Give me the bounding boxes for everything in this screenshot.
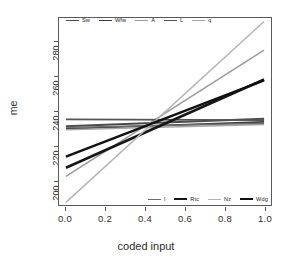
series-lines [59,18,271,205]
x-tick-label-4: 0.8 [209,213,241,224]
x-tick-mark [265,207,266,211]
legend-item-A: A [135,17,155,23]
line-series-Nz [66,21,264,202]
legend-item-l: l [148,196,165,202]
legend-item-L: L [164,17,183,23]
x-tick-mark [65,207,66,211]
legend-label-Sw: Sw [82,17,90,23]
x-tick-label-2: 0.4 [129,213,161,224]
line-series-A [66,50,264,176]
x-tick-label-5: 1.0 [249,213,281,224]
legend-label-Wfw: Wfw [115,17,126,23]
x-tick-mark [185,207,186,211]
legend-swatch-Wfw [99,20,112,21]
x-tick-label-3: 0.6 [169,213,201,224]
legend-item-Nz: Nz [208,196,231,202]
legend-label-Nz: Nz [224,196,231,202]
legend-swatch-Rtc [174,198,187,200]
legend-swatch-Wdg [240,198,253,200]
legend-swatch-A [135,20,148,21]
legend-swatch-q [192,20,205,21]
x-tick-label-0: 0.0 [49,213,81,224]
legend-swatch-Sw [66,20,79,21]
legend-label-q: q [208,17,211,23]
legend-swatch-Nz [208,199,221,200]
legend-bottom: lRtcNzWdg [148,196,277,202]
legend-swatch-L [164,20,177,21]
legend-label-Wdg: Wdg [256,196,268,202]
plot-panel [58,17,272,206]
line-series-Wdg [66,80,264,156]
legend-label-l: l [164,196,165,202]
legend-item-Wdg: Wdg [240,196,268,202]
x-tick-label-1: 0.2 [89,213,121,224]
legend-item-Rtc: Rtc [174,196,199,202]
legend-swatch-l [148,199,161,200]
main-effects-chart: me 200 220 240 260 280 0.0 0.2 0.4 0.6 0… [0,0,292,271]
x-tick-mark [105,207,106,211]
legend-item-q: q [192,17,211,23]
legend-top: SwWfwALq [66,17,220,23]
x-tick-mark [145,207,146,211]
x-axis-title: coded input [0,240,292,252]
y-axis-title: me [7,101,19,116]
legend-label-L: L [180,17,183,23]
legend-item-Wfw: Wfw [99,17,126,23]
legend-label-A: A [151,17,155,23]
legend-label-Rtc: Rtc [190,196,199,202]
legend-item-Sw: Sw [66,17,90,23]
x-tick-mark [225,207,226,211]
